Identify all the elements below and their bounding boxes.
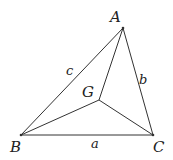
- side-c-AB: [21, 28, 123, 135]
- vertex-A-point: [122, 27, 125, 30]
- side-label-c: c: [66, 63, 74, 78]
- triangle-diagram: A B C G a b c: [0, 0, 173, 160]
- vertex-label-C: C: [153, 138, 165, 156]
- vertex-B-point: [20, 134, 23, 137]
- segment-BG: [21, 100, 99, 135]
- vertex-C-point: [152, 134, 155, 137]
- segment-AG: [99, 28, 123, 100]
- side-label-b: b: [139, 72, 147, 87]
- vertex-label-G: G: [82, 83, 94, 101]
- side-label-a: a: [91, 136, 99, 151]
- vertex-label-B: B: [9, 138, 21, 156]
- vertex-label-A: A: [108, 8, 121, 26]
